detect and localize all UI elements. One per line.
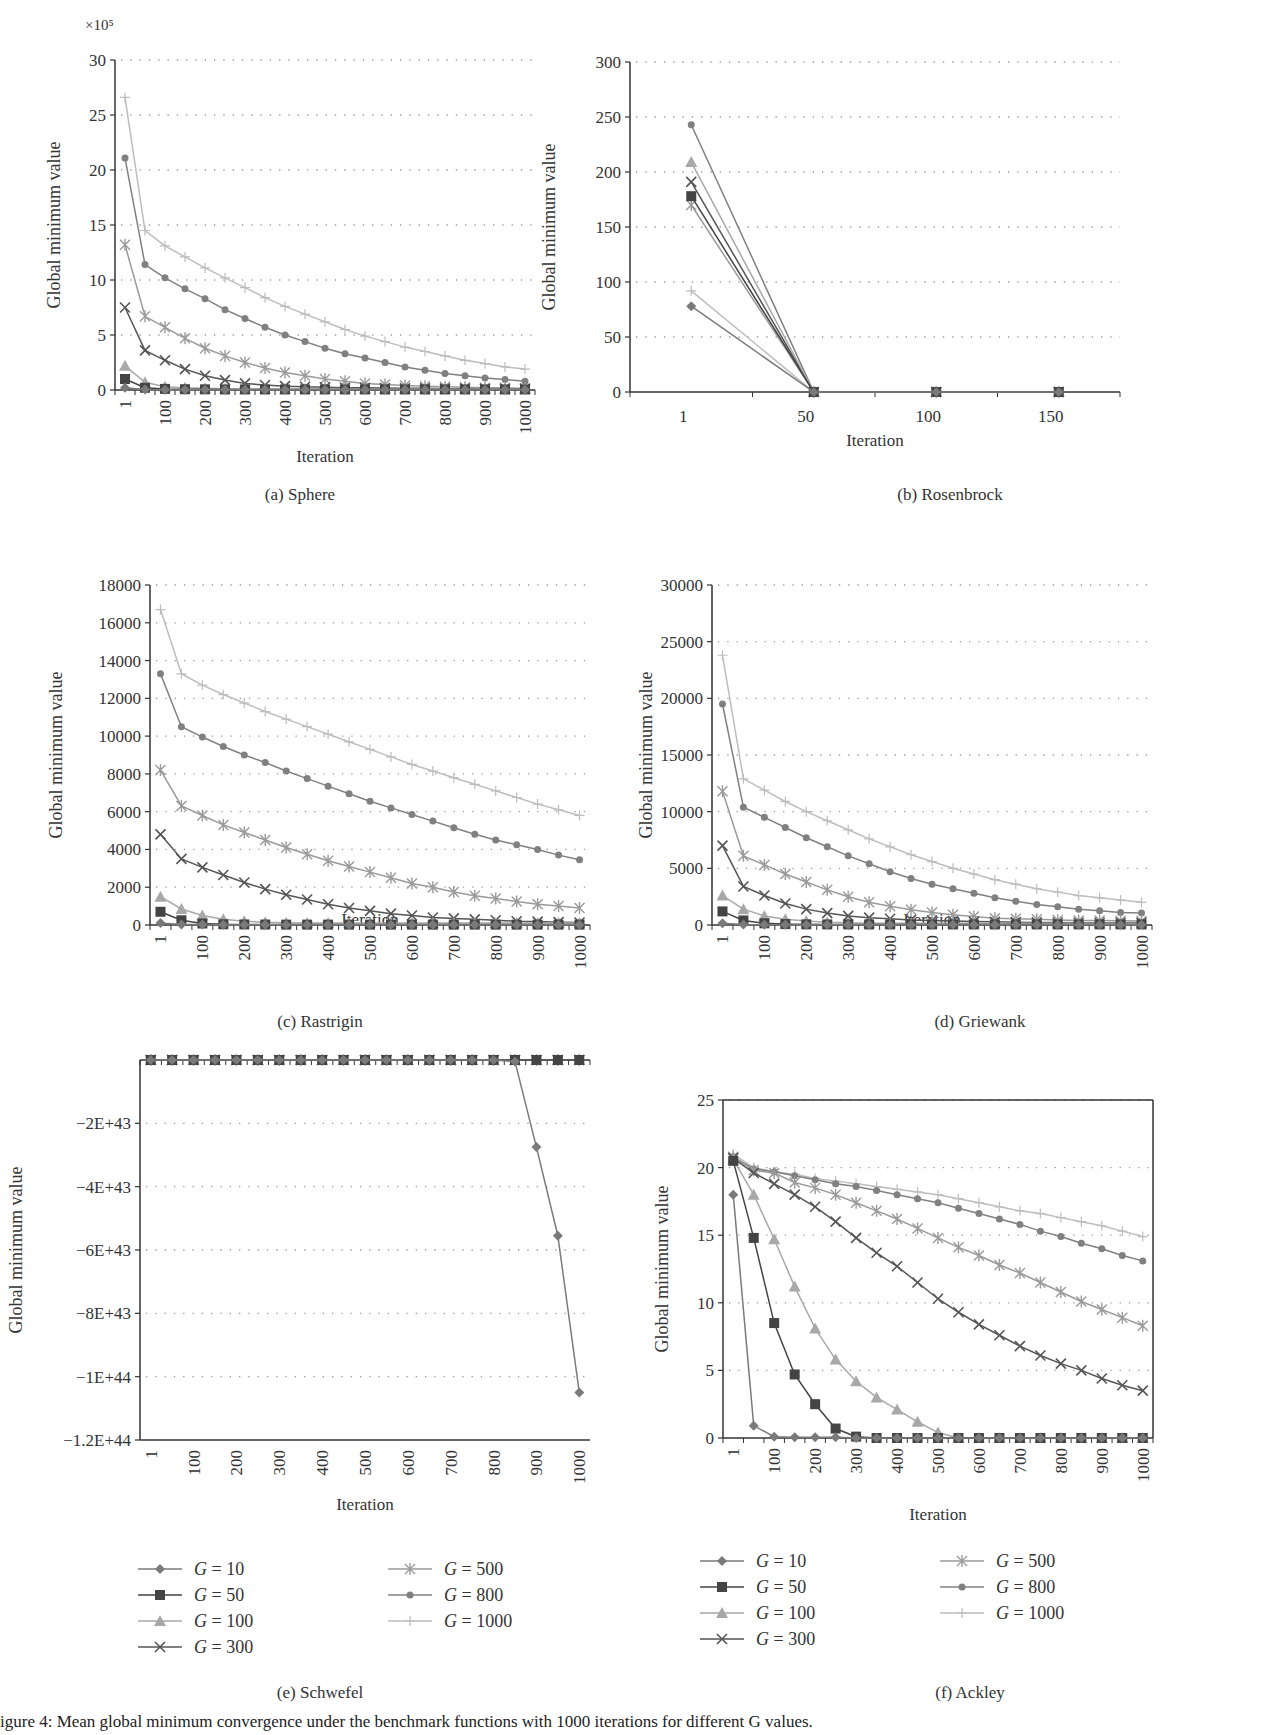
x-marker [302, 895, 312, 905]
triangle-marker [789, 1281, 801, 1292]
circle-marker [322, 345, 329, 352]
triangle-marker [737, 903, 749, 914]
circle-marker [346, 790, 353, 797]
circle-marker [929, 881, 936, 888]
legend-item: G = 10 [700, 1548, 940, 1574]
y-tick-label: 15 [89, 216, 106, 235]
y-tick-label: 6000 [107, 803, 141, 822]
circle-icon [388, 1586, 432, 1604]
x-tick-label: 600 [970, 1448, 989, 1474]
circle-marker [576, 856, 583, 863]
plus-marker [440, 351, 450, 361]
plus-marker [554, 805, 564, 815]
circle-marker [482, 374, 489, 381]
series-markers [728, 1190, 1148, 1443]
circle-marker [782, 824, 789, 831]
y-tick-label: 5 [98, 326, 107, 345]
diamond-marker [831, 1432, 841, 1442]
circle-marker [1054, 903, 1061, 910]
x-marker [1097, 1374, 1107, 1384]
circle-marker [914, 1195, 921, 1202]
square-marker [769, 1318, 779, 1328]
x-tick-label: 500 [316, 400, 335, 426]
x-tick-label: 1 [713, 935, 732, 944]
diamond-marker [749, 1421, 759, 1431]
circle-marker [845, 852, 852, 859]
x-marker [1138, 1386, 1148, 1396]
x-marker [953, 1307, 963, 1317]
y-tick-label: 300 [596, 53, 622, 72]
circle-marker [304, 775, 311, 782]
legend-label: G = 1000 [444, 1611, 512, 1632]
circle-marker [1012, 898, 1019, 905]
x-tick-label: 900 [476, 400, 495, 426]
star-marker [218, 819, 228, 831]
star-marker [302, 848, 312, 860]
series [119, 92, 531, 394]
circle-marker [959, 1584, 966, 1591]
plus-marker [717, 650, 727, 660]
x-tick-label: 400 [276, 400, 295, 426]
axes: 050100150200250300150100150 [596, 53, 1121, 426]
plus-marker [994, 1202, 1004, 1212]
x-marker [892, 1261, 902, 1271]
legend-schwefel-right: G = 500G = 800G = 1000 [388, 1556, 558, 1660]
plus-marker [1138, 1232, 1148, 1242]
y-tick-label: 150 [596, 218, 622, 237]
series-markers [686, 286, 1064, 397]
triangle-marker [768, 1233, 780, 1244]
chart-griewank: 0500010000150002000025000300001100200300… [640, 520, 1273, 950]
y-tick-label: 0 [706, 1429, 715, 1448]
star-marker [155, 764, 165, 776]
square-icon [138, 1586, 182, 1604]
y-tick-label: 20 [89, 161, 106, 180]
plus-marker [1035, 1209, 1045, 1219]
series-line [151, 1060, 580, 1393]
plus-marker [180, 252, 190, 262]
y-tick-label: 20 [697, 1159, 714, 1178]
x-marker [239, 878, 249, 888]
plus-marker [1076, 1217, 1086, 1227]
triangle-marker [891, 1404, 903, 1415]
circle-marker [422, 367, 429, 374]
legend-item: G = 10 [138, 1556, 388, 1582]
x-marker [933, 1294, 943, 1304]
square-icon [700, 1578, 744, 1596]
gridlines [121, 60, 535, 335]
y-tick-label: 0 [98, 381, 107, 400]
x-tick-label: 100 [916, 407, 942, 426]
y-axis-title: Global minimum value [44, 142, 64, 309]
circle-marker [262, 324, 269, 331]
plus-marker [974, 1198, 984, 1208]
star-marker [1076, 1295, 1086, 1307]
series [685, 121, 1065, 398]
y-tick-label: 20000 [661, 689, 704, 708]
figure-caption: igure 4: Mean global minimum convergence… [0, 1712, 813, 1732]
plus-marker [176, 669, 186, 679]
x-axis-title: Iteration [846, 431, 904, 450]
circle-marker [1075, 906, 1082, 913]
plus-marker [260, 707, 270, 717]
x-tick-label: 300 [839, 935, 858, 961]
star-marker [974, 1249, 984, 1261]
x-marker [140, 345, 150, 355]
triangle-marker [119, 360, 131, 371]
star-marker [344, 860, 354, 872]
legend-label: G = 500 [444, 1559, 503, 1580]
x-marker [1117, 1380, 1127, 1390]
x-tick-label: 300 [270, 1450, 289, 1476]
x-marker [260, 884, 270, 894]
gridlines [636, 62, 1120, 337]
legend-label: G = 50 [756, 1577, 806, 1598]
legend-item: G = 1000 [388, 1608, 558, 1634]
y-axis-title: Global minimum value [46, 672, 66, 839]
star-marker [260, 362, 270, 374]
circle-marker [887, 868, 894, 875]
series-markers [728, 1153, 1148, 1396]
square-marker [728, 1156, 738, 1166]
series [716, 650, 1147, 930]
plus-marker [948, 863, 958, 873]
circle-marker [866, 860, 873, 867]
star-marker [160, 321, 170, 333]
x-tick-label: 900 [529, 935, 548, 961]
